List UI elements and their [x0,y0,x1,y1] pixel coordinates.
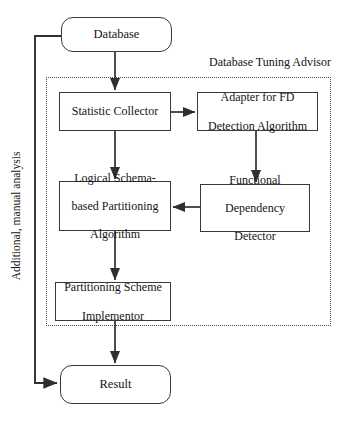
node-statistic-collector[interactable]: Statistic Collector [59,92,171,131]
node-database[interactable]: Database [61,17,172,52]
node-result-label: Result [96,377,136,392]
node-partitioning-scheme-implementor[interactable]: Partitioning Scheme Implementor [55,282,171,321]
node-adapter-label-line2: Detection Algorithm [204,119,311,133]
node-logical-schema-label: Logical Schema- based Partitioning Algor… [64,171,167,242]
node-functional-dependency-detector[interactable]: Functional Dependency Detector [200,184,310,232]
node-database-label: Database [90,27,144,42]
node-logical-schema-label-line2: based Partitioning [68,199,163,213]
feedback-edge-label: Additional, manual analysis [10,131,22,301]
node-psi-label-line1: Partitioning Scheme [60,280,166,294]
node-logical-schema-label-line3: Algorithm [68,227,163,241]
node-fdd-label-line2: Dependency [221,201,289,215]
node-partitioning-scheme-implementor-label: Partitioning Scheme Implementor [56,280,170,322]
node-adapter-for-fd-detection-algorithm[interactable]: Adapter for FD Detection Algorithm [197,92,318,131]
node-logical-schema-based-partitioning-algorithm[interactable]: Logical Schema- based Partitioning Algor… [59,181,171,231]
node-fdd-label-line3: Detector [221,229,289,243]
node-psi-label-line2: Implementor [60,309,166,323]
node-statistic-collector-label: Statistic Collector [68,104,162,118]
node-functional-dependency-detector-label: Functional Dependency Detector [217,173,293,244]
node-fdd-label-line1: Functional [221,173,289,187]
node-adapter-label: Adapter for FD Detection Algorithm [200,90,315,132]
node-logical-schema-label-line1: Logical Schema- [68,171,163,185]
node-adapter-label-line1: Adapter for FD [204,90,311,104]
database-tuning-advisor-label: Database Tuning Advisor [170,55,331,70]
flowchart-diagram: Database Tuning Advisor Database Statist… [0,0,342,421]
node-result[interactable]: Result [60,365,171,404]
